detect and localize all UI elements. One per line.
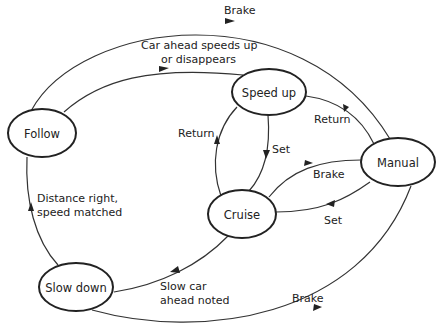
arrowhead-icon	[326, 200, 335, 207]
edge-manual-to-cruise-set: Set	[276, 182, 370, 227]
state-label: Cruise	[224, 208, 260, 222]
state-label: Speed up	[242, 86, 296, 100]
edge-label: Set	[272, 143, 291, 156]
edge-label: Slow car	[160, 280, 207, 293]
edge-label: Brake	[313, 168, 345, 181]
arrowhead-icon	[28, 202, 34, 211]
edge-cruise-to-manual-brake: Brake	[269, 160, 361, 197]
state-cruise: Cruise	[208, 190, 276, 238]
arrowhead-icon	[304, 160, 313, 166]
state-slow-down: Slow down	[39, 263, 113, 311]
state-manual: Manual	[361, 138, 435, 186]
arrowhead-icon	[225, 18, 235, 24]
edge-label: ahead noted	[160, 294, 229, 307]
edge-cruise-to-speed-up-return: Return	[178, 107, 237, 196]
state-follow: Follow	[8, 109, 76, 157]
arrowhead-icon	[159, 66, 169, 72]
arrowhead-icon	[313, 304, 322, 311]
edge-label: or disappears	[161, 53, 236, 66]
state-label: Follow	[24, 127, 60, 141]
edge-label: Car ahead speeds up	[141, 39, 258, 52]
edge-label: Return	[178, 127, 215, 140]
edge-follow-to-speed-up: Car ahead speeds up or disappears	[64, 39, 258, 112]
edge-label: Set	[324, 214, 343, 227]
edge-cruise-to-slow-down: Slow car ahead noted	[114, 236, 229, 307]
edge-label: speed matched	[37, 206, 122, 219]
edge-label: Brake	[292, 292, 324, 305]
state-label: Slow down	[45, 281, 107, 295]
arrowhead-icon	[263, 150, 270, 159]
state-speed-up: Speed up	[232, 69, 306, 115]
edge-speed-up-to-cruise-set: Set	[249, 115, 291, 191]
state-label: Manual	[377, 156, 419, 170]
edge-label: Return	[314, 113, 351, 126]
arrowhead-icon	[170, 266, 180, 273]
edge-label: Distance right,	[37, 192, 118, 205]
state-diagram: Brake Car ahead speeds up or disappears …	[0, 0, 439, 336]
edge-slow-down-to-follow: Distance right, speed matched	[27, 157, 123, 265]
edge-label: Brake	[224, 4, 256, 17]
